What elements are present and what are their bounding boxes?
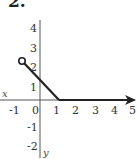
y-tick-neg1: -1	[27, 121, 38, 134]
x-tick-4: 4	[111, 104, 118, 117]
graph: 4 3 2 1 -1 -2 -1 0 1 2 3 4 5 x y	[0, 0, 137, 159]
y-axis-label: y	[42, 147, 49, 158]
x-tick-1: 1	[53, 104, 60, 117]
x-tick-0: 0	[32, 104, 39, 117]
x-tick-3: 3	[92, 104, 99, 117]
open-circle-endpoint	[19, 58, 25, 64]
y-tick-neg2: -2	[27, 140, 38, 153]
x-tick-5: 5	[129, 104, 136, 117]
x-axis-label: x	[2, 88, 8, 99]
x-tick-2: 2	[72, 104, 79, 117]
x-tick-neg1: -1	[9, 104, 20, 117]
y-tick-4: 4	[30, 22, 37, 35]
y-tick-1: 1	[30, 81, 37, 94]
y-tick-3: 3	[30, 42, 37, 55]
